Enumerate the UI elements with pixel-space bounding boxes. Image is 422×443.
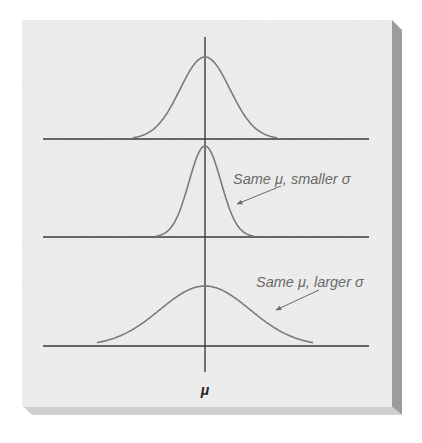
panel-shadow-right — [392, 20, 402, 415]
normal-distribution-diagram: Same μ, smaller σ Same μ, larger σ μ — [0, 0, 422, 443]
mu-axis-label: μ — [200, 382, 210, 398]
label-smaller-sigma: Same μ, smaller σ — [233, 171, 352, 187]
label-larger-sigma: Same μ, larger σ — [256, 274, 365, 290]
panel-grain — [22, 20, 392, 407]
